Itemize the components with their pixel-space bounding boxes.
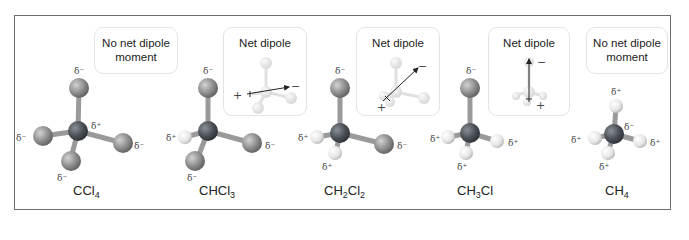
molecule-ch3cl: δ⁻ δ⁺ δ⁺ δ⁺ [430, 66, 518, 172]
charge-label: δ⁺ [571, 135, 581, 145]
hydrogen-atom [459, 146, 473, 160]
hydrogen-atom [328, 146, 342, 160]
charge-label: δ⁻ [203, 66, 213, 76]
formula-ch2cl2: CH2Cl2 [324, 183, 365, 200]
formula-ch4: CH4 [605, 183, 629, 200]
charge-label: δ⁺ [298, 133, 308, 143]
chlorine-atom [61, 151, 81, 171]
charge-label: δ⁻ [335, 66, 345, 76]
charge-label: δ⁻ [397, 141, 407, 151]
carbon-atom [604, 124, 624, 144]
hydrogen-atom [490, 134, 504, 148]
charge-label: δ⁺ [91, 121, 101, 131]
formula-ccl4: CCl4 [73, 183, 100, 200]
charge-label: δ⁺ [166, 133, 176, 143]
hydrogen-atom [601, 146, 615, 160]
svg-text:−: − [291, 80, 300, 93]
svg-text:−: − [418, 60, 427, 73]
chlorine-atom [185, 151, 205, 171]
hydrogen-atom [310, 130, 324, 144]
molecule-ccl4: δ⁻ δ⁺ δ⁻ δ⁻ δ⁻ [16, 66, 144, 183]
dipole-inset-ch2cl2: + − [377, 57, 430, 114]
hydrogen-atom [633, 134, 647, 148]
charge-label: δ⁺ [599, 162, 609, 172]
hydrogen-atom [588, 131, 602, 145]
charge-label: δ⁺ [508, 138, 518, 148]
svg-text:+: + [536, 99, 545, 112]
chlorine-atom [242, 133, 262, 153]
charge-label: δ⁺ [650, 138, 660, 148]
carbon-atom [198, 121, 218, 141]
charge-label: δ⁺ [611, 87, 621, 97]
charge-label: δ⁺ [430, 134, 440, 144]
chlorine-atom [198, 78, 218, 98]
molecule-ch2cl2: δ⁻ δ⁺ δ⁻ δ⁺ [298, 66, 407, 172]
charge-label: δ⁻ [187, 173, 197, 183]
dipole-inset-chcl3: + − [233, 57, 300, 114]
charge-label: δ⁻ [624, 122, 634, 132]
charge-label: δ⁻ [134, 141, 144, 151]
chlorine-atom [330, 78, 350, 98]
molecule-ch4: δ⁺ δ⁻ δ⁺ δ⁺ δ⁺ [571, 87, 660, 172]
chlorine-atom [374, 134, 394, 154]
carbon-atom [330, 123, 350, 143]
svg-text:−: − [537, 56, 546, 69]
hydrogen-atom [609, 99, 623, 113]
formula-chcl3: CHCl3 [199, 183, 235, 200]
svg-text:+: + [233, 89, 242, 102]
chlorine-atom [460, 78, 480, 98]
carbon-atom [68, 121, 88, 141]
charge-label: δ⁻ [16, 133, 26, 143]
charge-label: δ⁺ [457, 162, 467, 172]
svg-text:+: + [377, 101, 386, 114]
dipole-inset-ch3cl: + − [512, 56, 547, 112]
charge-label: δ⁻ [466, 66, 476, 76]
chlorine-atom [69, 78, 89, 98]
hydrogen-atom [178, 130, 192, 144]
hydrogen-atom [441, 130, 455, 144]
charge-label: δ⁻ [57, 173, 67, 183]
chlorine-atom [113, 133, 133, 153]
carbon-atom [460, 123, 480, 143]
molecule-chcl3: δ⁻ δ⁺ δ⁻ δ⁻ [166, 66, 275, 183]
charge-label: δ⁻ [265, 141, 275, 151]
chlorine-atom [33, 126, 53, 146]
charge-label: δ⁺ [322, 162, 332, 172]
charge-label: δ⁻ [74, 66, 84, 76]
formula-ch3cl: CH3Cl [457, 183, 493, 200]
